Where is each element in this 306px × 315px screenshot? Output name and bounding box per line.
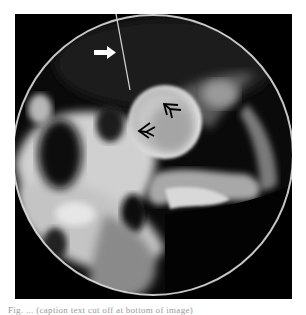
figure-caption: Fig. ... (caption text cut off at bottom…: [8, 305, 298, 315]
radiograph-image: [15, 14, 292, 299]
radiograph-figure: [15, 14, 292, 299]
